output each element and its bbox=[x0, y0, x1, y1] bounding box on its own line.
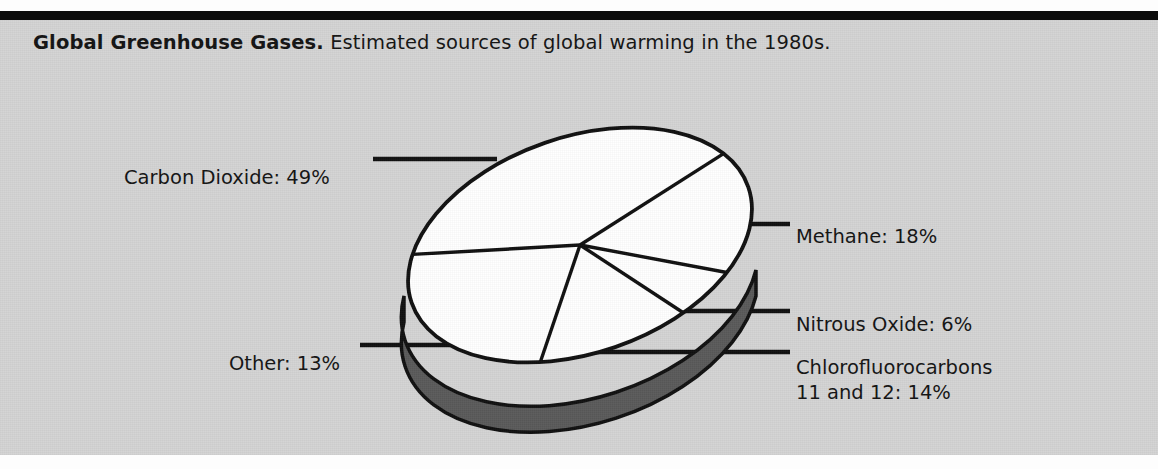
pie-label-methane: Methane: 18% bbox=[796, 224, 937, 249]
pie-label-other: Other: 13% bbox=[229, 351, 340, 376]
pie-label-cfc-line2: 11 and 12: 14% bbox=[796, 380, 992, 405]
horizontal-rule-top bbox=[0, 11, 1158, 20]
pie-label-carbon-dioxide: Carbon Dioxide: 49% bbox=[124, 165, 330, 190]
figure-page: Global Greenhouse Gases. Estimated sourc… bbox=[0, 0, 1158, 469]
pie-label-nitrous-oxide: Nitrous Oxide: 6% bbox=[796, 312, 972, 337]
pie-chart: Carbon Dioxide: 49% Other: 13% Methane: … bbox=[0, 20, 1158, 455]
page-bottom-margin bbox=[0, 455, 1158, 469]
pie-label-cfc-line1: Chlorofluorocarbons bbox=[796, 355, 992, 380]
pie-label-cfc: Chlorofluorocarbons 11 and 12: 14% bbox=[796, 355, 992, 405]
pie-top-face bbox=[377, 85, 784, 405]
page-top-margin bbox=[0, 0, 1158, 11]
